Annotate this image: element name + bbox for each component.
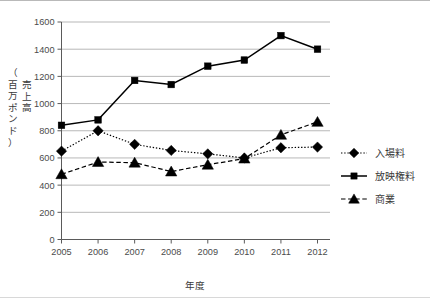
data-point-marker	[278, 32, 285, 39]
y-axis-tick-labels: 02004006008001000120014001600	[34, 17, 54, 245]
data-point-marker	[56, 169, 67, 179]
data-point-marker	[351, 173, 357, 179]
x-tick-label: 2008	[161, 247, 181, 257]
data-point-marker	[168, 81, 175, 88]
data-point-marker	[312, 142, 322, 152]
data-point-marker	[58, 122, 65, 129]
chart-figure: 02004006008001000120014001600 2005200620…	[0, 0, 430, 298]
x-tick-label: 2006	[88, 247, 108, 257]
data-point-marker	[312, 117, 323, 127]
data-point-marker	[204, 63, 211, 70]
data-point-marker	[56, 146, 66, 156]
legend: 入場料放映権料商業	[341, 147, 415, 205]
legend-label[interactable]: 商業	[375, 193, 395, 205]
y-tick-label: 800	[39, 126, 54, 136]
data-point-marker	[93, 126, 103, 136]
y-tick-label: 1400	[34, 45, 54, 55]
y-tick-label: 200	[39, 208, 54, 218]
x-tick-label: 2010	[234, 247, 254, 257]
x-axis-ticks	[62, 240, 318, 244]
y-tick-label: 0	[49, 235, 54, 245]
y-tick-label: 1600	[34, 17, 54, 27]
x-tick-label: 2012	[307, 247, 327, 257]
y-axis-ticks	[58, 22, 62, 240]
y-axis-title: 売上高（百万ポンド）	[8, 67, 32, 148]
x-tick-label: 2007	[124, 247, 144, 257]
x-axis-tick-labels: 20052006200720082009201020112012	[51, 247, 327, 257]
y-axis-title-char: 高	[22, 102, 32, 113]
y-tick-label: 600	[39, 153, 54, 163]
data-point-marker	[241, 57, 248, 64]
series-markers	[56, 32, 323, 178]
x-tick-label: 2005	[51, 247, 71, 257]
y-axis-title-char: ド	[8, 125, 18, 136]
data-point-marker	[349, 148, 359, 158]
data-point-marker	[276, 143, 286, 153]
x-axis-title: 年度	[185, 280, 205, 291]
data-point-marker	[131, 77, 138, 84]
legend-label[interactable]: 入場料	[375, 147, 405, 159]
y-axis-title-char: ）	[8, 137, 18, 148]
y-axis-title-char: （	[8, 67, 18, 78]
legend-label[interactable]: 放映権料	[375, 170, 415, 182]
x-tick-label: 2011	[271, 247, 291, 257]
y-axis-title-char: 百	[8, 79, 18, 90]
y-axis-title-char: 上	[22, 91, 32, 102]
data-point-marker	[203, 149, 213, 159]
y-tick-label: 400	[39, 181, 54, 191]
data-point-marker	[95, 117, 102, 124]
y-axis-title-char: 売	[22, 79, 32, 90]
x-tick-label: 2009	[198, 247, 218, 257]
data-point-marker	[202, 159, 213, 169]
y-axis-title-char: ポ	[8, 102, 18, 113]
series-lines	[62, 36, 318, 175]
y-axis-title-char: ン	[8, 113, 18, 124]
data-point-marker	[166, 145, 176, 155]
y-axis-title-char: 万	[8, 90, 18, 101]
line-chart-canvas: 02004006008001000120014001600 2005200620…	[0, 1, 430, 298]
data-point-marker	[129, 139, 139, 149]
data-point-marker	[314, 46, 321, 53]
y-tick-label: 1000	[34, 99, 54, 109]
y-tick-label: 1200	[34, 72, 54, 82]
